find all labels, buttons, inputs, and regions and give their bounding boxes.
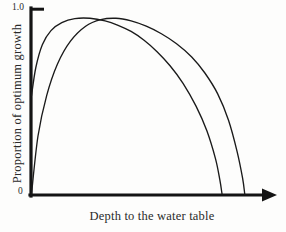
axes xyxy=(30,8,277,202)
growth-curve-deep xyxy=(32,18,245,194)
growth-vs-water-table-depth-chart: 1.0 0 Depth to the water table Proportio… xyxy=(0,0,286,232)
y-axis-title: Proportion of optimum growth xyxy=(10,9,25,199)
x-axis-arrowhead xyxy=(262,189,277,202)
data-curves xyxy=(32,18,245,194)
chart-plot-area xyxy=(0,0,286,232)
growth-curve-shallow xyxy=(32,18,223,194)
x-axis-title: Depth to the water table xyxy=(0,209,286,224)
